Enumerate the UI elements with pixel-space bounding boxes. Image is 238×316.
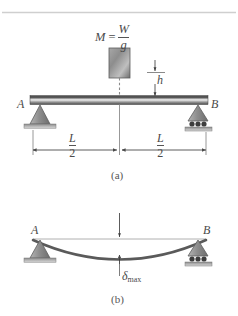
right-length-numerator: L (157, 132, 164, 144)
dim-label-left-half: L 2 (69, 132, 76, 159)
ground-base-b (185, 127, 212, 131)
roller-support-b-b (188, 240, 208, 256)
left-length-denominator: 2 (69, 147, 76, 159)
caption-a: (a) (111, 170, 123, 181)
support-label-b-b: B (203, 224, 210, 236)
roller-b-3 (201, 121, 206, 126)
weight-numerator: W (118, 23, 128, 36)
panel-b-graphics (24, 213, 212, 276)
roller-b-2 (195, 121, 200, 126)
beam-a (30, 96, 208, 105)
ground-base-a (24, 124, 56, 128)
caption-b: (b) (111, 294, 124, 305)
right-half-fraction: L 2 (157, 132, 164, 159)
max-deflection-label: δmax (122, 267, 141, 284)
ground-base-a-b (24, 258, 56, 262)
roller-b-b-2 (195, 256, 200, 261)
left-half-fraction: L 2 (69, 132, 76, 159)
right-length-denominator: 2 (157, 147, 164, 159)
support-label-a: A (17, 98, 24, 110)
engineering-figure: M = W g h A B L 2 L 2 (a) A B δmax (0, 0, 238, 316)
weight-over-gravity-fraction: W g (118, 23, 128, 52)
left-length-numerator: L (69, 132, 76, 144)
drop-height-label: h (157, 74, 163, 86)
mass-formula: M = W g (95, 23, 129, 52)
roller-b-b-1 (189, 256, 194, 261)
pin-support-a (30, 105, 50, 124)
support-label-b: B (211, 98, 218, 110)
gravity-denominator: g (118, 39, 128, 52)
ground-base-b-b (185, 262, 212, 266)
dim-label-right-half: L 2 (157, 132, 164, 159)
support-label-a-b: A (31, 224, 38, 236)
equals-sign: = (108, 31, 115, 44)
pin-support-a-b (30, 240, 50, 258)
roller-support-b (188, 105, 208, 121)
panel-a-graphics (24, 48, 212, 155)
mass-symbol-label: M (95, 31, 105, 44)
roller-b-b-3 (201, 256, 206, 261)
falling-mass-block (109, 48, 130, 78)
delta-subscript: max (128, 275, 142, 284)
roller-b-1 (189, 121, 194, 126)
